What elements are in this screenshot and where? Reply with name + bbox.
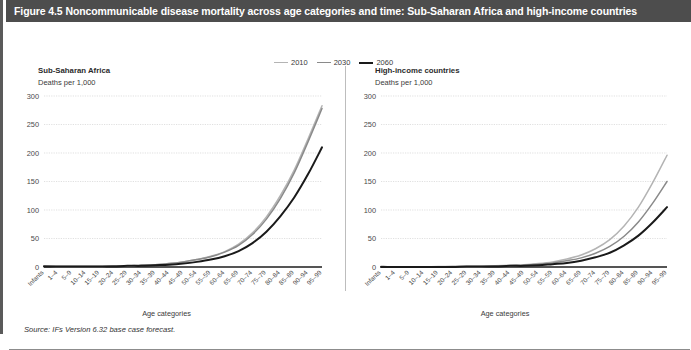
x-axis-tick-label: 75–79 [593,268,611,286]
series-line-2030 [44,109,322,267]
x-axis-tick-label: 95–99 [305,268,323,286]
panel-title-right: High-income countries [375,66,459,75]
plot-area-right: 050100150200250300Infants1–45–910–1415–1… [351,90,683,275]
y-axis-tick-label: 100 [27,206,39,215]
y-axis-tick-label: 250 [27,120,39,129]
figure-title-bar: Figure 4.5 Noncommunicable disease morta… [6,0,691,22]
panel-divider [345,66,346,291]
chart-panel-high-income-countries: High-income countries Deaths per 1,000 0… [351,66,683,316]
x-axis-tick-label: 20–24 [436,268,454,286]
legend-swatch-2010-icon [274,62,288,63]
y-axis-tick-label: 300 [364,92,376,101]
x-axis-tick-label: 1–4 [384,268,397,281]
y-axis-tick-label: 150 [364,177,376,186]
x-axis-tick-label: 95–99 [650,268,668,286]
y-axis-tick-label: 250 [364,120,376,129]
x-axis-tick-label: 1–4 [46,268,59,281]
plot-svg-left: 050100150200250300Infants1–45–910–1415–1… [14,90,339,320]
x-axis-tick-label: 25–29 [450,268,468,286]
y-axis-tick-label: 200 [364,149,376,158]
x-axis-tick-label: 45–49 [507,268,525,286]
series-line-2010 [44,106,322,267]
series-line-2060 [44,147,322,266]
figure-source-note: Source: IFs Version 6.32 base case forec… [24,325,175,334]
y-axis-tick-label: 50 [31,234,39,243]
x-axis-tick-label: 60–64 [550,268,568,286]
x-axis-title-left: Age categories [4,309,329,318]
x-axis-tick-label: 65–69 [564,268,582,286]
chart-panel-sub-saharan-africa: Sub-Saharan Africa Deaths per 1,000 0501… [14,66,339,316]
legend-swatch-2030-icon [317,62,331,63]
panel-subtitle-right: Deaths per 1,000 [375,78,433,87]
y-axis-tick-label: 150 [27,177,39,186]
x-axis-tick-label: 70–74 [579,268,597,286]
y-axis-tick-label: 100 [364,206,376,215]
y-axis-tick-label: 300 [27,92,39,101]
panel-subtitle-left: Deaths per 1,000 [38,78,96,87]
x-axis-tick-label: 50–54 [521,268,539,286]
x-axis-tick-label: 40–44 [493,268,511,286]
x-axis-tick-label: 35–39 [479,268,497,286]
series-line-2030 [381,182,667,268]
x-axis-tick-label: 55–59 [536,268,554,286]
legend-swatch-2060-icon [359,62,373,64]
x-axis-tick-label: 90–94 [636,268,654,286]
y-axis-tick-label: 200 [27,149,39,158]
x-axis-tick-label: 85–89 [622,268,640,286]
x-axis-tick-label: 10–14 [407,268,425,286]
series-line-2010 [381,155,667,267]
figure-body: 2010 2030 2060 Sub-Saharan Africa Deaths… [6,22,691,334]
figure-title: Figure 4.5 Noncommunicable disease morta… [6,5,637,17]
x-axis-title-right: Age categories [339,309,671,318]
panel-title-left: Sub-Saharan Africa [38,66,110,75]
x-axis-tick-label: 15–19 [421,268,439,286]
x-axis-tick-label: 30–34 [464,268,482,286]
plot-area-left: 050100150200250300Infants1–45–910–1415–1… [14,90,339,275]
plot-svg-right: 050100150200250300Infants1–45–910–1415–1… [351,90,683,320]
y-axis-tick-label: 50 [368,234,376,243]
x-axis-tick-label: 80–84 [607,268,625,286]
